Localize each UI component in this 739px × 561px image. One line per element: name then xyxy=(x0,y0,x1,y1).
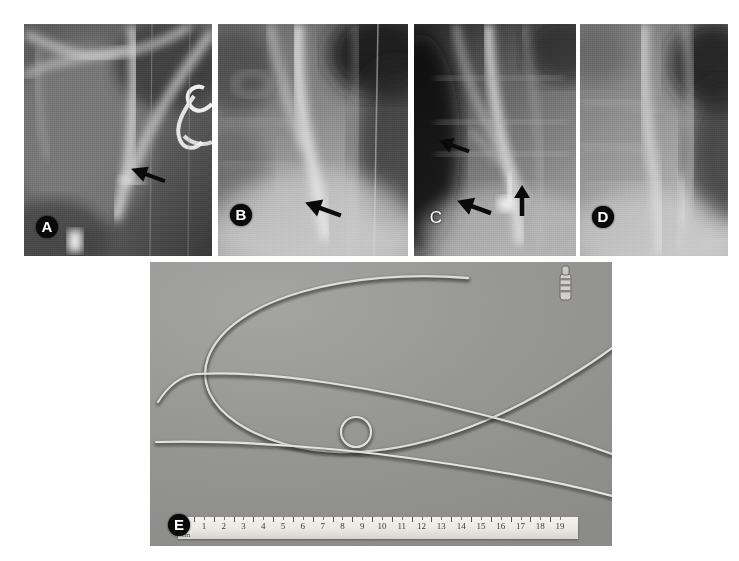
figure-root: A xyxy=(0,0,739,561)
ruler-number: 7 xyxy=(320,521,325,531)
ruler-number: 4 xyxy=(261,521,266,531)
ruler-minor-tick xyxy=(481,517,482,520)
ruler-minor-tick xyxy=(204,517,205,520)
ruler-major-tick xyxy=(431,517,432,522)
ruler-number: 1 xyxy=(202,521,207,531)
ruler-minor-tick xyxy=(303,517,304,520)
panel-b-radiograph: B xyxy=(218,24,408,256)
panel-d-radiograph: D xyxy=(580,24,728,256)
ruler-minor-tick xyxy=(263,517,264,520)
ruler-number: 9 xyxy=(360,521,365,531)
ruler-number: 16 xyxy=(496,521,505,531)
ruler-number: 2 xyxy=(221,521,226,531)
ruler-minor-tick xyxy=(402,517,403,520)
ruler-major-tick xyxy=(511,517,512,522)
ruler-minor-tick xyxy=(422,517,423,520)
ruler-minor-tick xyxy=(323,517,324,520)
ruler-major-tick xyxy=(214,517,215,522)
ruler-minor-tick xyxy=(224,517,225,520)
ruler-major-tick xyxy=(234,517,235,522)
panel-label-a: A xyxy=(36,216,58,238)
panel-label-c: C xyxy=(428,208,444,228)
ruler-number: 5 xyxy=(281,521,286,531)
looped-catheter-body xyxy=(205,276,612,452)
panel-c-radiograph: C xyxy=(414,24,576,256)
ruler-major-tick xyxy=(333,517,334,522)
ruler-major-tick xyxy=(491,517,492,522)
ruler-number: 3 xyxy=(241,521,246,531)
pigtail-coil-shadow xyxy=(341,419,371,449)
ruler-major-tick xyxy=(352,517,353,522)
ruler-minor-tick xyxy=(521,517,522,520)
ruler-major-tick xyxy=(471,517,472,522)
ruler-major-tick xyxy=(273,517,274,522)
ruler-number: 6 xyxy=(301,521,306,531)
ruler-major-tick xyxy=(293,517,294,522)
ruler-minor-tick xyxy=(362,517,363,520)
ruler-major-tick xyxy=(194,517,195,522)
ruler-number: 15 xyxy=(476,521,485,531)
catheter-group xyxy=(150,262,612,546)
ruler-major-tick xyxy=(451,517,452,522)
panel-label-d: D xyxy=(592,206,614,228)
catheter-hub-icon xyxy=(560,266,571,300)
ruler-tick-marks: 12345678910111213141516171819 xyxy=(178,517,578,539)
ruler-minor-tick xyxy=(461,517,462,520)
ruler-number: 13 xyxy=(437,521,446,531)
ruler-number: 14 xyxy=(457,521,466,531)
ruler-minor-tick xyxy=(243,517,244,520)
panel-label-e: E xyxy=(168,514,190,536)
ruler-major-tick xyxy=(530,517,531,522)
panel-a-radiograph: A xyxy=(24,24,212,256)
ruler-minor-tick xyxy=(283,517,284,520)
catheter-illustration xyxy=(150,262,612,546)
ruler-major-tick xyxy=(392,517,393,522)
pigtail-coil xyxy=(341,417,371,447)
ruler-major-tick xyxy=(412,517,413,522)
ruler-minor-tick xyxy=(560,517,561,520)
ruler-major-tick xyxy=(372,517,373,522)
ruler-number: 19 xyxy=(556,521,565,531)
centimeter-ruler: 12345678910111213141516171819 cm xyxy=(178,517,578,539)
panel-label-b: B xyxy=(230,204,252,226)
ruler-minor-tick xyxy=(342,517,343,520)
panel-e-photograph: 12345678910111213141516171819 cm E xyxy=(150,262,612,546)
ruler-number: 8 xyxy=(340,521,345,531)
ruler-minor-tick xyxy=(441,517,442,520)
ruler-number: 18 xyxy=(536,521,545,531)
ruler-number: 17 xyxy=(516,521,525,531)
ruler-minor-tick xyxy=(382,517,383,520)
ruler-major-tick xyxy=(550,517,551,522)
ruler-minor-tick xyxy=(540,517,541,520)
ruler-major-tick xyxy=(253,517,254,522)
ruler-major-tick xyxy=(313,517,314,522)
ruler-number: 11 xyxy=(397,521,406,531)
ruler-number: 10 xyxy=(378,521,387,531)
ruler-number: 12 xyxy=(417,521,426,531)
ruler-minor-tick xyxy=(501,517,502,520)
